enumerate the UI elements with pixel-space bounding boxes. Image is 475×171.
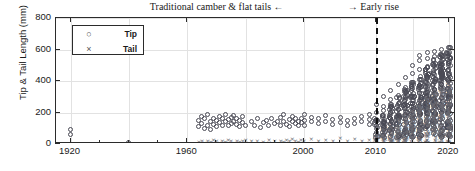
- data-point-tip: [287, 124, 292, 129]
- data-point-tail: ×: [430, 121, 435, 126]
- legend-item-tip: ○ Tip: [73, 27, 143, 41]
- x-axis-tick-top: [375, 17, 376, 22]
- gridline-vertical: [187, 18, 188, 142]
- x-axis-minor-tick: [99, 140, 100, 143]
- data-point-tip: [338, 115, 343, 120]
- data-point-tip: [323, 119, 328, 124]
- data-point-tip: [417, 53, 422, 58]
- data-point-tip: [430, 62, 435, 67]
- data-point-tip: [330, 122, 335, 127]
- data-point-tip: [202, 116, 207, 121]
- data-point-tail: ×: [387, 138, 392, 143]
- x-axis-tick-label: 2010: [353, 146, 397, 156]
- y-axis-tick-label: 600: [0, 44, 51, 54]
- data-point-tip: [316, 116, 321, 121]
- y-axis-tick-label: 800: [0, 12, 51, 22]
- data-point-tip: [338, 120, 343, 125]
- data-point-tip: [359, 119, 364, 124]
- y-axis-tick: [450, 80, 455, 81]
- data-point-tip: [309, 115, 314, 120]
- data-point-tip: [302, 112, 307, 117]
- y-axis-tick: [450, 49, 455, 50]
- data-point-tail: ×: [345, 138, 350, 143]
- x-axis-tick-label: 2000: [281, 146, 325, 156]
- data-point-tip: [68, 127, 73, 132]
- x-axis-tick-label: 2020: [426, 146, 470, 156]
- data-point-tip: [367, 112, 372, 117]
- era-divider-line: [376, 18, 378, 143]
- x-axis-minor-tick: [128, 140, 129, 143]
- data-point-tail: ×: [309, 136, 314, 141]
- data-point-tip: [258, 125, 263, 130]
- data-point-tail: ×: [402, 111, 407, 116]
- data-point-tip: [255, 116, 260, 121]
- x-axis-tick: [303, 138, 304, 143]
- data-point-tail: ×: [417, 140, 422, 143]
- data-point-tip: [448, 63, 453, 68]
- data-point-tip: [223, 112, 228, 117]
- data-point-tip: [410, 63, 415, 68]
- data-point-tail: ×: [416, 123, 421, 128]
- legend-item-tail: × Tail: [73, 42, 143, 56]
- x-marker-icon: ×: [82, 42, 96, 56]
- y-axis-tick-label: 0: [0, 138, 51, 148]
- data-point-tail: ×: [447, 83, 452, 88]
- data-point-tip: [438, 52, 443, 57]
- data-point-tail: ×: [432, 128, 437, 133]
- data-point-tip: [367, 122, 372, 127]
- data-point-tip: [281, 112, 286, 117]
- data-point-tail: ×: [261, 139, 266, 143]
- y-axis-tick: [450, 143, 455, 144]
- x-axis-tick-top: [303, 17, 304, 22]
- data-point-tip: [252, 123, 257, 128]
- data-point-tip: [448, 56, 453, 61]
- data-point-tail: ×: [330, 138, 335, 143]
- gridline-horizontal: [56, 18, 454, 19]
- data-point-tail: ×: [438, 94, 443, 99]
- data-point-tail: ×: [432, 92, 437, 97]
- data-point-tip: [266, 123, 271, 128]
- y-axis-tick: [450, 17, 455, 18]
- data-point-tip: [431, 57, 436, 62]
- data-point-tail: ×: [367, 137, 372, 142]
- data-point-tail: ×: [424, 105, 429, 110]
- data-point-tip: [208, 127, 213, 132]
- data-point-tip: [431, 70, 436, 75]
- data-point-tail: ×: [316, 138, 321, 143]
- x-axis-tick: [448, 138, 449, 143]
- x-axis-tick: [186, 138, 187, 143]
- plot-area: ××××××××××××××××××××××××××××××××××××××××…: [55, 17, 455, 143]
- x-axis-tick: [70, 138, 71, 143]
- gridline-horizontal: [56, 81, 454, 82]
- data-point-tip: [205, 112, 210, 117]
- data-point-tip: [381, 94, 386, 99]
- data-point-tip: [264, 118, 269, 123]
- x-axis-minor-tick: [412, 140, 413, 143]
- data-point-tip: [240, 114, 245, 119]
- data-point-tail: ×: [425, 137, 430, 142]
- y-axis-tick: [55, 112, 60, 113]
- data-point-tail: ×: [424, 116, 429, 121]
- data-point-tip: [424, 73, 429, 78]
- data-point-tip: [316, 121, 321, 126]
- data-point-tip: [388, 88, 393, 93]
- data-point-tail: ×: [323, 137, 328, 142]
- y-axis-tick: [55, 80, 60, 81]
- data-point-tip: [417, 67, 422, 72]
- y-axis-tick: [55, 49, 60, 50]
- data-point-tip: [396, 82, 401, 87]
- x-axis-minor-tick: [215, 140, 216, 143]
- x-axis-tick-top: [186, 17, 187, 22]
- data-point-tip: [269, 116, 274, 121]
- data-point-tip: [403, 75, 408, 80]
- x-axis-minor-tick: [245, 140, 246, 143]
- x-axis-minor-tick: [274, 140, 275, 143]
- data-point-tip: [243, 123, 248, 128]
- data-point-tail: ×: [448, 131, 453, 136]
- y-axis-tick: [55, 17, 60, 18]
- data-point-tail: ×: [410, 127, 415, 132]
- data-point-tail: ×: [403, 136, 408, 141]
- circle-marker-icon: ○: [82, 27, 96, 41]
- data-point-tip: [345, 118, 350, 123]
- data-point-tip: [330, 117, 335, 122]
